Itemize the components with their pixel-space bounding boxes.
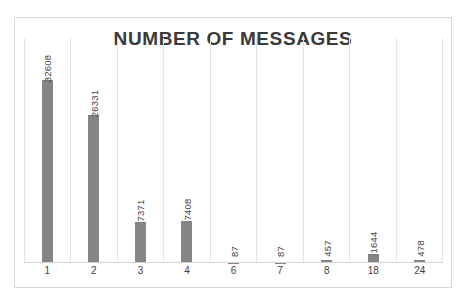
- bar-slot: 87: [210, 38, 257, 263]
- x-tick-label: 24: [397, 265, 444, 276]
- x-tick-label: 1: [24, 265, 71, 276]
- x-tick-label: 8: [303, 265, 350, 276]
- bar-value-label: 87: [275, 246, 286, 257]
- chart-container: NUMBER OF MESSAGES 32608 26331 7371: [14, 17, 452, 288]
- axis-baseline: [24, 262, 443, 263]
- bar-slot: 32608: [24, 38, 71, 263]
- bar-value-label: 87: [228, 246, 239, 257]
- bar-value-label: 32608: [42, 54, 53, 81]
- bars-layer: 32608 26331 7371 7408 87 87: [24, 38, 443, 263]
- bar-slot: 7371: [117, 38, 164, 263]
- x-tick-label: 6: [210, 265, 257, 276]
- x-tick-label: 7: [257, 265, 304, 276]
- bar[interactable]: [42, 80, 53, 263]
- x-tick-label: 2: [71, 265, 118, 276]
- bar-slot: 457: [303, 38, 350, 263]
- x-tick-label: 18: [350, 265, 397, 276]
- x-tick-label: 3: [117, 265, 164, 276]
- bar-value-label: 7371: [135, 199, 146, 221]
- plot-area: 32608 26331 7371 7408 87 87: [24, 38, 443, 263]
- bar-slot: 87: [257, 38, 304, 263]
- bar[interactable]: [135, 222, 146, 263]
- x-tick-label: 4: [164, 265, 211, 276]
- bar[interactable]: [88, 115, 99, 263]
- bar-value-label: 1644: [368, 231, 379, 253]
- bar-value-label: 457: [321, 241, 332, 257]
- bar-value-label: 26331: [88, 90, 99, 117]
- bar-slot: 1644: [350, 38, 397, 263]
- bar[interactable]: [181, 221, 192, 263]
- bar-value-label: 7408: [181, 199, 192, 221]
- bar-slot: 7408: [164, 38, 211, 263]
- bar-slot: 478: [397, 38, 444, 263]
- bar-slot: 26331: [71, 38, 118, 263]
- x-axis-tick-labels: 1 2 3 4 6 7 8 18 24: [24, 265, 443, 276]
- bar-value-label: 478: [414, 241, 425, 257]
